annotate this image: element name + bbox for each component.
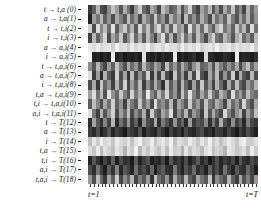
heatmap-row <box>88 5 258 14</box>
row-label: a → a,i(4) <box>0 43 84 52</box>
x-axis-label-start: t=1 <box>88 190 100 199</box>
row-label-text: t,i → T(16) <box>41 157 76 164</box>
row-label-text: a → a,i(4) <box>44 44 76 51</box>
row-tick-mark <box>78 151 81 152</box>
row-label-text: t → t,i(2) <box>47 25 76 32</box>
row-tick-mark <box>78 47 81 48</box>
row-label: t,a → T(15) <box>0 146 84 155</box>
row-label-text: a → t,a(1) <box>44 15 76 22</box>
heatmap-cell <box>254 90 258 99</box>
heatmap-row <box>88 24 258 33</box>
row-label: t,i → t,a,i(10) <box>0 99 84 108</box>
row-label: t → t,a,i(6) <box>0 62 84 71</box>
heatmap-row <box>88 71 258 80</box>
heatmap-cell <box>254 175 258 184</box>
heatmap-row <box>88 90 258 99</box>
row-tick-mark <box>78 122 81 123</box>
heatmap-row <box>88 175 258 184</box>
row-label: a → t,a(1) <box>0 14 84 23</box>
row-label-axis: t → t,a (0)a → t,a(1)t → t,i(2)i → t,i(3… <box>0 5 84 184</box>
row-label-text: a,i → t,a,i(11) <box>33 110 76 117</box>
heatmap-cell <box>254 62 258 71</box>
row-tick-mark <box>78 179 81 180</box>
heatmap-cell <box>254 71 258 80</box>
row-label: t,a → t,a,i(9) <box>0 90 84 99</box>
row-label: i → t,a,i(8) <box>0 80 84 89</box>
heatmap-row <box>88 43 258 52</box>
row-label: t → T(12) <box>0 118 84 127</box>
row-label: a,i → t,a,i(11) <box>0 109 84 118</box>
heatmap-row <box>88 165 258 174</box>
row-label: t,a,i → T(18) <box>0 175 84 184</box>
heatmap-row <box>88 62 258 71</box>
heatmap-cell <box>254 99 258 108</box>
heatmap-cell <box>254 5 258 14</box>
row-tick-mark <box>78 19 81 20</box>
row-tick-mark <box>78 103 81 104</box>
heatmap-cell <box>254 14 258 23</box>
heatmap-cell <box>254 24 258 33</box>
heatmap-cell <box>254 127 258 136</box>
x-tick-mark <box>254 184 258 188</box>
row-label-text: t,a → t,a,i(9) <box>36 91 76 98</box>
row-tick-mark <box>78 169 81 170</box>
row-tick-mark <box>78 37 81 38</box>
row-label: t → t,a (0) <box>0 5 84 14</box>
row-label: i → a,i(5) <box>0 52 84 61</box>
row-label-text: t → t,a,i(6) <box>42 63 76 70</box>
row-label-text: t,i → t,a,i(10) <box>34 100 76 107</box>
heatmap-cell <box>254 137 258 146</box>
row-label-text: i → T(14) <box>46 138 76 145</box>
heatmap-cell <box>254 165 258 174</box>
heatmap-row <box>88 146 258 155</box>
row-label-text: t,a → T(15) <box>40 147 76 154</box>
row-label: i → t,i(3) <box>0 33 84 42</box>
heatmap-cell <box>254 109 258 118</box>
row-tick-mark <box>78 56 81 57</box>
row-tick-mark <box>78 85 81 86</box>
x-axis-label-end: t=T <box>246 190 258 199</box>
x-axis-ticks <box>88 184 258 188</box>
heatmap-row <box>88 33 258 42</box>
row-label: a → T(13) <box>0 127 84 136</box>
heatmap-row <box>88 127 258 136</box>
heatmap-row <box>88 99 258 108</box>
heatmap-row <box>88 52 258 61</box>
row-label-text: a → t,a,i(7) <box>40 72 76 79</box>
row-label: a,i → T(17) <box>0 165 84 174</box>
heatmap-cell <box>254 33 258 42</box>
heatmap-cell <box>254 146 258 155</box>
row-label: t,i → T(16) <box>0 156 84 165</box>
row-label-text: i → t,i(3) <box>47 34 76 41</box>
row-tick-mark <box>78 160 81 161</box>
row-label-text: t,a,i → T(18) <box>36 176 76 183</box>
heatmap-figure: t → t,a (0)a → t,a(1)t → t,i(2)i → t,i(3… <box>0 0 261 211</box>
heatmap-row <box>88 109 258 118</box>
row-label-text: t → T(12) <box>46 119 76 126</box>
row-label-text: i → a,i(5) <box>46 53 76 60</box>
row-tick-mark <box>78 66 81 67</box>
row-tick-mark <box>78 75 81 76</box>
row-label-text: a → T(13) <box>44 128 76 135</box>
heatmap-row <box>88 118 258 127</box>
x-axis-labels: t=1 t=T <box>88 190 260 206</box>
heatmap-row <box>88 156 258 165</box>
heatmap-cell <box>254 43 258 52</box>
row-label: i → T(14) <box>0 137 84 146</box>
heatmap-row <box>88 14 258 23</box>
heatmap-cell <box>254 52 258 61</box>
row-tick-mark <box>78 94 81 95</box>
heatmap-row <box>88 80 258 89</box>
row-tick-mark <box>78 141 81 142</box>
row-label: a → t,a,i(7) <box>0 71 84 80</box>
heatmap-cell <box>254 156 258 165</box>
row-tick-mark <box>78 132 81 133</box>
heatmap-cell <box>254 118 258 127</box>
heatmap-cell <box>254 80 258 89</box>
heatmap-row <box>88 137 258 146</box>
row-label-text: t → t,a (0) <box>44 6 76 13</box>
row-label: t → t,i(2) <box>0 24 84 33</box>
heatmap-grid <box>88 5 258 184</box>
row-tick-mark <box>78 113 81 114</box>
row-tick-mark <box>78 9 81 10</box>
